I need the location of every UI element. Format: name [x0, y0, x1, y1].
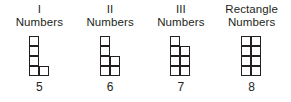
shape-area: [100, 33, 120, 77]
caption-line-2: Numbers: [225, 16, 278, 29]
grid-cell-filled: [251, 46, 261, 56]
caption-line-1: Rectangle: [225, 3, 278, 16]
grid-cell-filled: [100, 56, 110, 66]
shape-area: [29, 33, 49, 77]
figure-column: IINumbers6: [75, 3, 146, 94]
count-label: 5: [36, 81, 43, 94]
caption-line-1: I: [16, 3, 63, 16]
grid-cell-filled: [251, 56, 261, 66]
grid-cell-filled: [180, 46, 190, 56]
shape-area: [171, 33, 191, 77]
grid-cell-filled: [110, 56, 120, 66]
count-label: 6: [107, 81, 114, 94]
grid-cell-filled: [251, 66, 261, 76]
square-grid-figure: [29, 37, 49, 77]
grid-cell-filled: [29, 46, 39, 56]
grid-cell-filled: [180, 56, 190, 66]
column-caption: IINumbers: [86, 3, 133, 28]
figure-column: IIINumbers7: [146, 3, 217, 94]
grid-cell-filled: [29, 56, 39, 66]
grid-cell-filled: [39, 66, 49, 76]
square-grid-figure: [242, 37, 262, 77]
grid-cell-empty: [39, 37, 49, 47]
grid-cell-filled: [170, 36, 180, 46]
grid-cell-empty: [39, 47, 49, 57]
grid-cell-filled: [100, 36, 110, 46]
grid-cell-filled: [170, 46, 180, 56]
figure-column: INumbers5: [4, 3, 75, 94]
grid-cell-filled: [241, 66, 251, 76]
count-label: 8: [248, 81, 255, 94]
column-caption: INumbers: [16, 3, 63, 28]
caption-line-2: Numbers: [86, 16, 133, 29]
caption-line-2: Numbers: [157, 16, 204, 29]
figure-column: RectangleNumbers8: [216, 3, 287, 94]
square-grid-figure: [171, 37, 191, 77]
caption-line-2: Numbers: [16, 16, 63, 29]
caption-line-1: III: [157, 3, 204, 16]
grid-cell-filled: [170, 56, 180, 66]
grid-cell-filled: [29, 36, 39, 46]
grid-cell-filled: [251, 36, 261, 46]
square-grid-figure: [100, 37, 120, 77]
shape-area: [242, 33, 262, 77]
count-label: 7: [178, 81, 185, 94]
grid-cell-filled: [29, 66, 39, 76]
grid-cell-filled: [110, 66, 120, 76]
grid-cell-filled: [100, 66, 110, 76]
column-caption: IIINumbers: [157, 3, 204, 28]
grid-cell-filled: [100, 46, 110, 56]
grid-cell-filled: [241, 36, 251, 46]
grid-cell-empty: [110, 37, 120, 47]
caption-line-1: II: [86, 3, 133, 16]
grid-cell-filled: [241, 56, 251, 66]
grid-cell-filled: [170, 66, 180, 76]
grid-cell-filled: [180, 66, 190, 76]
column-caption: RectangleNumbers: [225, 3, 278, 28]
figurate-numbers-diagram: INumbers5IINumbers6IIINumbers7RectangleN…: [0, 0, 291, 102]
grid-cell-filled: [241, 46, 251, 56]
